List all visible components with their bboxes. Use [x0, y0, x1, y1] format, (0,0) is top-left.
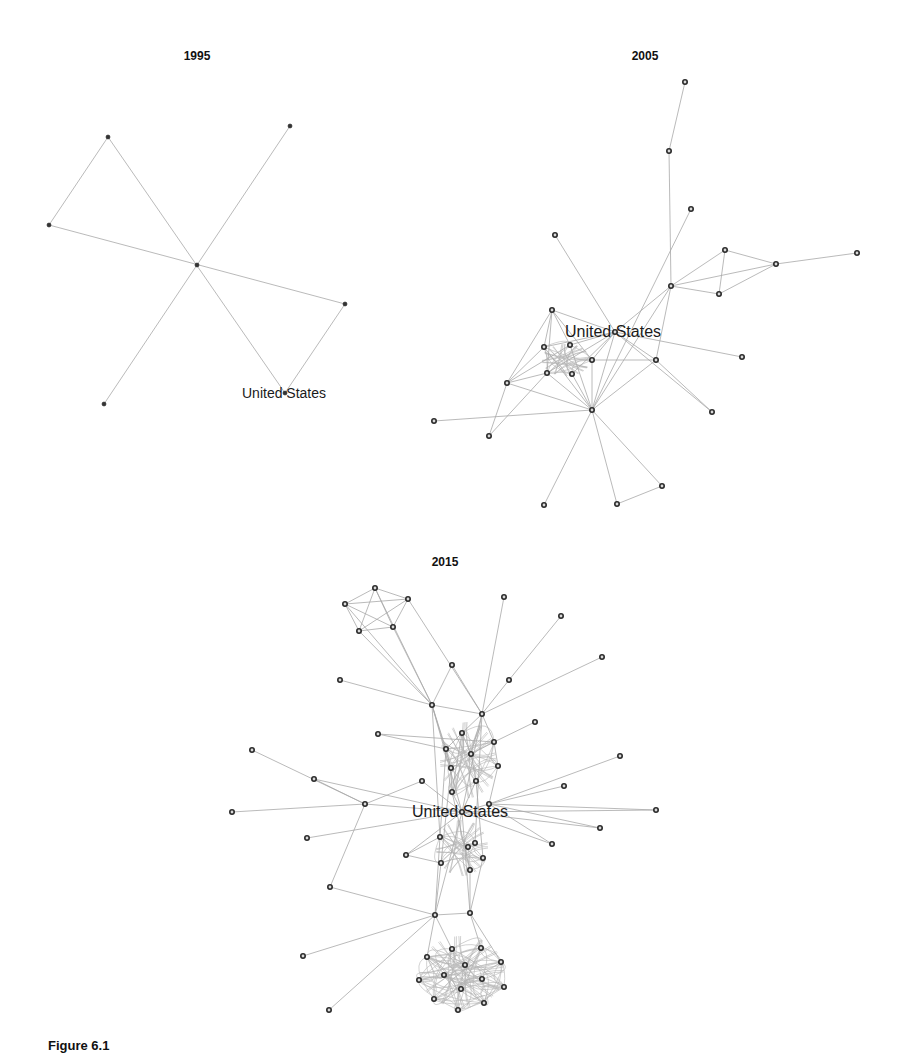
node	[618, 754, 622, 758]
edge	[303, 915, 435, 956]
node	[442, 973, 446, 977]
node	[343, 602, 347, 606]
node	[466, 845, 470, 849]
edge	[489, 786, 564, 804]
node	[740, 355, 744, 359]
edge	[719, 250, 725, 294]
node	[550, 842, 554, 846]
node	[473, 841, 477, 845]
panel-2005: 2005United States	[432, 49, 859, 507]
edge	[489, 383, 507, 436]
node	[542, 503, 546, 507]
node	[481, 856, 485, 860]
node	[496, 764, 500, 768]
edge	[489, 756, 620, 804]
node	[502, 595, 506, 599]
edge	[314, 779, 365, 804]
node	[590, 358, 594, 362]
edge	[345, 604, 432, 705]
node	[391, 625, 395, 629]
node	[562, 784, 566, 788]
node	[479, 946, 483, 950]
edge	[570, 345, 592, 410]
node	[357, 629, 361, 633]
node	[559, 614, 563, 618]
node	[482, 1001, 486, 1005]
node	[717, 292, 721, 296]
edge	[592, 360, 656, 410]
edge	[435, 913, 470, 915]
edge	[359, 631, 432, 705]
node	[450, 663, 454, 667]
edge	[406, 855, 441, 863]
edge	[393, 599, 408, 627]
node	[710, 410, 714, 414]
node	[553, 233, 557, 237]
node	[459, 987, 463, 991]
node	[667, 149, 671, 153]
node	[460, 731, 464, 735]
node	[502, 985, 506, 989]
edge	[434, 410, 592, 421]
node	[570, 372, 574, 376]
edge	[656, 360, 712, 412]
node	[404, 853, 408, 857]
edge	[482, 657, 602, 714]
edge	[285, 304, 345, 393]
edge	[592, 286, 671, 410]
node	[723, 248, 727, 252]
node	[669, 284, 673, 288]
edge	[719, 264, 776, 294]
edge	[671, 264, 776, 286]
panel-1995: 1995United States	[47, 49, 347, 406]
node	[363, 802, 367, 806]
node	[654, 358, 658, 362]
edge	[544, 410, 592, 505]
node	[468, 911, 472, 915]
node	[433, 913, 437, 917]
node	[301, 954, 305, 958]
edge	[432, 665, 452, 705]
nodes	[47, 124, 347, 406]
edge	[345, 599, 408, 604]
node	[774, 262, 778, 266]
edge	[432, 705, 482, 714]
node	[456, 1008, 460, 1012]
edge	[330, 887, 435, 915]
node	[615, 502, 619, 506]
edge	[671, 286, 719, 294]
node	[430, 703, 434, 707]
edge	[482, 597, 504, 714]
node	[327, 1008, 331, 1012]
node	[450, 790, 454, 794]
edge	[725, 250, 776, 264]
edge	[408, 599, 482, 714]
node	[492, 740, 496, 744]
node	[600, 655, 604, 659]
node	[499, 960, 503, 964]
edge	[509, 616, 561, 680]
node	[598, 826, 602, 830]
edge	[375, 588, 432, 705]
node	[439, 861, 443, 865]
edge	[776, 253, 857, 264]
node	[474, 779, 478, 783]
node	[545, 371, 549, 375]
node	[425, 955, 429, 959]
edge	[470, 913, 501, 962]
node	[338, 678, 342, 682]
node	[438, 835, 442, 839]
node	[855, 251, 859, 255]
edge	[232, 804, 365, 812]
node	[449, 766, 453, 770]
figure-caption: Figure 6.1	[48, 1038, 109, 1053]
node	[487, 434, 491, 438]
edge	[329, 915, 435, 1010]
edge	[555, 235, 615, 332]
edge	[49, 137, 108, 225]
edge	[340, 680, 432, 705]
node	[288, 124, 292, 128]
node	[230, 810, 234, 814]
edge	[359, 599, 408, 631]
